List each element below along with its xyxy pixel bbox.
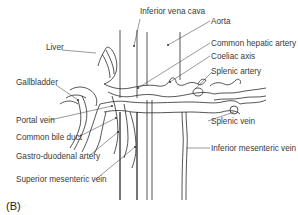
- inferior-mesenteric-vein-vessel: [182, 112, 187, 200]
- inferior-vena-cava-vessel: [120, 30, 137, 200]
- label-gallbladder: Gallbladder: [16, 78, 58, 87]
- aorta-vessel: [147, 32, 180, 200]
- label-superior-mesenteric-vein: Superior mesenteric vein: [16, 175, 107, 184]
- liver-shape: [98, 47, 117, 84]
- label-splenic-vein: Splenic vein: [211, 117, 256, 126]
- label-aorta: Aorta: [211, 17, 231, 26]
- label-coeliac-axis: Coeliac axis: [211, 52, 255, 61]
- label-portal-vein: Portal vein: [16, 116, 55, 125]
- label-common-bile-duct: Common bile duct: [16, 133, 83, 142]
- lower-branches: [70, 96, 137, 200]
- panel-label: (B): [6, 200, 21, 212]
- label-common-hepatic-artery: Common hepatic artery: [211, 39, 297, 48]
- label-liver: Liver: [46, 43, 64, 52]
- label-gastro-duodenal-artery: Gastro-duodenal artery: [16, 152, 101, 161]
- label-splenic-artery: Splenic artery: [211, 67, 262, 76]
- label-inferior-vena-cava: Inferior vena cava: [140, 7, 206, 16]
- anatomy-diagram: Inferior vena cava Aorta Liver Common he…: [0, 0, 298, 215]
- coeliac-vessels: [104, 78, 266, 100]
- label-inferior-mesenteric-vein: Inferior mesenteric vein: [211, 144, 297, 153]
